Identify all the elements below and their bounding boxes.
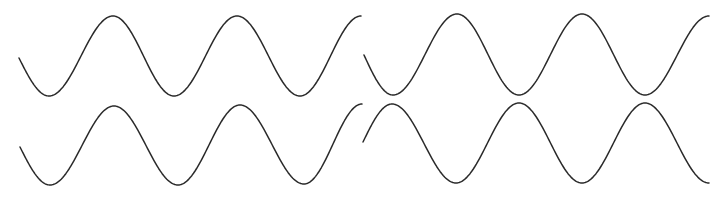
sine-wave-bottom-right — [363, 103, 709, 183]
sine-wave-top-left — [19, 16, 361, 96]
sine-wave-figure — [0, 0, 726, 204]
sine-wave-top-right — [364, 14, 709, 95]
sine-wave-plots — [0, 0, 726, 204]
sine-wave-bottom-left — [20, 104, 362, 185]
